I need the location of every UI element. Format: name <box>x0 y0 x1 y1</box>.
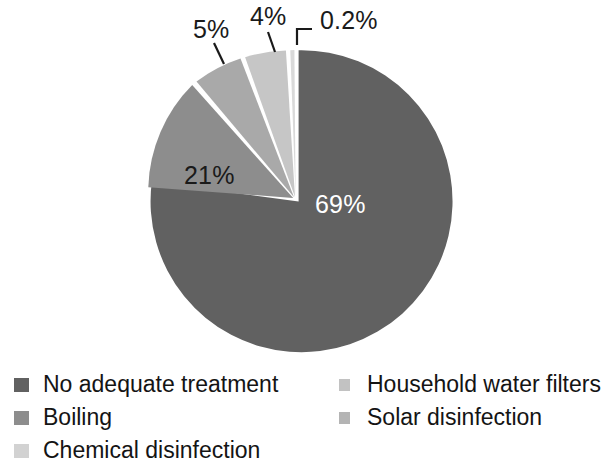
chart-legend: No adequate treatment Boiling Chemical d… <box>0 368 593 468</box>
legend-label: Boiling <box>43 406 112 429</box>
legend-swatch-icon <box>339 412 350 424</box>
slice-value-label-household-water-filters: 4% <box>250 4 287 29</box>
legend-item-household-water-filters[interactable]: Household water filters <box>339 368 601 401</box>
legend-label: No adequate treatment <box>43 373 278 396</box>
pie-svg <box>0 0 593 368</box>
slice-value-label-no-adequate-treatment: 69% <box>315 192 366 217</box>
legend-label: Household water filters <box>367 373 601 396</box>
legend-item-boiling[interactable]: Boiling <box>14 401 278 434</box>
legend-swatch-icon <box>339 379 350 391</box>
legend-label: Chemical disinfection <box>43 439 260 462</box>
legend-column-right: Household water filters Solar disinfecti… <box>339 368 601 434</box>
legend-swatch-icon <box>14 411 29 425</box>
legend-column-left: No adequate treatment Boiling Chemical d… <box>14 368 278 467</box>
legend-item-solar-disinfection[interactable]: Solar disinfection <box>339 401 601 434</box>
callout-elbow-0-2 <box>297 29 312 45</box>
legend-label: Solar disinfection <box>367 406 542 429</box>
slice-value-label-solar-disinfection: 0.2% <box>320 8 378 33</box>
slice-value-label-boiling: 21% <box>184 163 235 188</box>
legend-item-chemical-disinfection[interactable]: Chemical disinfection <box>14 434 278 467</box>
slice-value-label-chemical-disinfection: 5% <box>193 17 230 42</box>
callout-line-5 <box>214 43 224 64</box>
legend-swatch-icon <box>14 444 29 458</box>
legend-item-no-adequate-treatment[interactable]: No adequate treatment <box>14 368 278 401</box>
callout-line-4 <box>268 32 275 52</box>
pie-plot-area: 69% 21% 5% 4% 0.2% <box>0 0 593 368</box>
legend-swatch-icon <box>14 378 29 392</box>
